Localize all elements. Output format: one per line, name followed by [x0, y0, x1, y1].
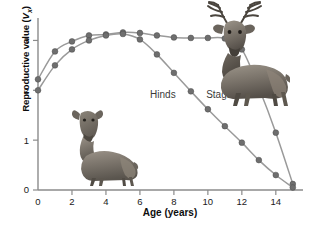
x-tick-label: 10: [203, 196, 214, 207]
data-point: [86, 38, 92, 44]
data-point: [35, 76, 41, 82]
data-point: [273, 130, 279, 136]
data-point: [69, 47, 75, 53]
x-tick-label: 14: [271, 196, 282, 207]
data-point: [222, 123, 228, 129]
red-deer-stag-illustration: [186, 1, 290, 107]
data-point: [273, 172, 279, 178]
data-point: [69, 39, 75, 45]
data-point: [137, 30, 143, 36]
data-point: [103, 33, 109, 39]
data-point: [290, 185, 296, 191]
stag-drawing: [186, 1, 290, 107]
x-tick-label: 12: [237, 196, 248, 207]
data-point: [171, 70, 177, 76]
y-tick-label: 0: [24, 184, 29, 195]
data-point: [154, 33, 160, 39]
data-point: [171, 35, 177, 41]
data-point: [52, 49, 58, 55]
y-axis-title: Reproductive value (Vx): [20, 0, 34, 134]
data-point: [256, 157, 262, 163]
red-deer-hind-illustration: [62, 104, 140, 186]
y-axis-title-subscript: x: [26, 9, 33, 13]
x-axis-title: Age (years): [143, 207, 197, 218]
x-tick-label: 2: [69, 196, 74, 207]
x-axis-ticks: 02468101214: [35, 190, 281, 207]
data-point: [52, 62, 58, 68]
data-point: [154, 51, 160, 57]
y-axis-title-symbol: V: [20, 13, 31, 19]
data-point: [239, 140, 245, 146]
series-label-hinds: Hinds: [150, 89, 176, 100]
reproductive-value-figure: 0123 02468101214 Hinds Stags Age (years)…: [0, 0, 309, 227]
x-tick-label: 8: [171, 196, 176, 207]
hind-drawing: [62, 104, 140, 186]
x-tick-label: 0: [35, 196, 40, 207]
x-tick-label: 4: [103, 196, 108, 207]
data-point: [120, 31, 126, 37]
y-tick-label: 1: [24, 135, 29, 146]
data-point: [205, 106, 211, 112]
x-tick-label: 6: [137, 196, 142, 207]
data-point: [35, 87, 41, 93]
y-axis-title-prefix: Reproductive value (: [20, 19, 31, 111]
y-axis-title-suffix: ): [20, 6, 31, 9]
data-point: [137, 37, 143, 43]
